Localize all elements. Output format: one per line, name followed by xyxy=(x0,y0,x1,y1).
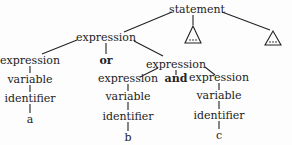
node-leaf-a: a xyxy=(27,114,34,125)
node-expression-b: expression xyxy=(98,73,158,84)
node-expression-left: expression xyxy=(0,55,60,66)
node-identifier-b: identifier xyxy=(102,111,153,122)
node-variable-a: variable xyxy=(7,74,52,85)
node-expression-c: expression xyxy=(189,72,249,83)
node-identifier-c: identifier xyxy=(193,110,244,121)
node-statement: statement xyxy=(169,4,225,15)
node-or: or xyxy=(99,55,112,66)
node-variable-c: variable xyxy=(196,90,241,101)
node-leaf-c: c xyxy=(216,130,222,141)
node-and: and xyxy=(165,73,188,84)
node-identifier-a: identifier xyxy=(4,93,55,104)
node-leaf-b: b xyxy=(124,132,131,143)
parse-tree-diagram: statement expression expression or expre… xyxy=(0,0,292,145)
node-variable-b: variable xyxy=(105,91,150,102)
node-expression-right: expression xyxy=(146,59,206,70)
node-expression-top: expression xyxy=(76,32,136,43)
